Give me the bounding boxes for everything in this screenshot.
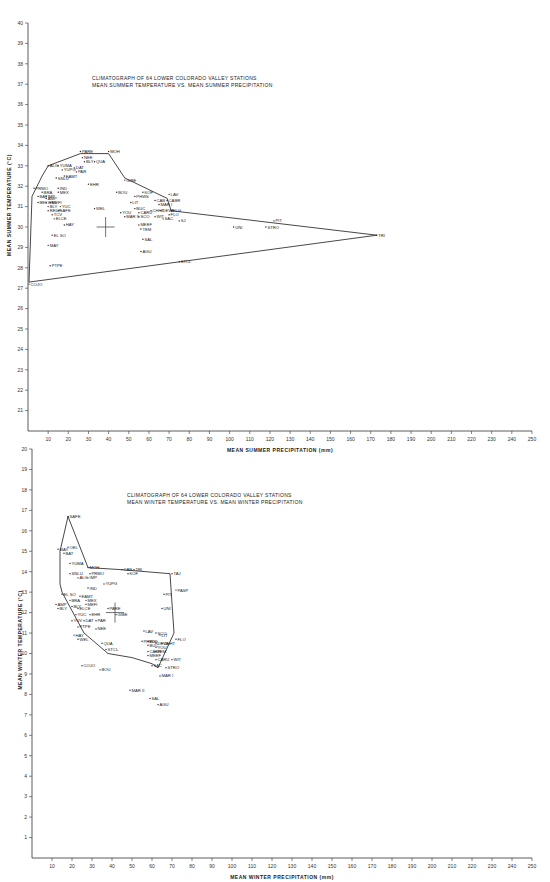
station-point: BAT — [63, 551, 73, 556]
station-label: MAR I — [161, 202, 173, 207]
station-label: MAR I — [162, 673, 174, 678]
station-point: STRO — [165, 665, 180, 670]
station-dot — [179, 220, 180, 221]
station-label: BOU — [118, 190, 127, 195]
station-label: MAR II — [126, 214, 139, 219]
station-dot — [67, 516, 68, 517]
station-point: MAY — [47, 243, 58, 248]
station-point: LAV — [168, 192, 178, 197]
station-dot — [138, 224, 139, 225]
y-tick-label: 29 — [17, 244, 23, 250]
station-dot — [73, 634, 74, 635]
station-dot — [159, 634, 160, 635]
station-point: NEE — [95, 626, 106, 631]
station-point: BRA — [69, 598, 80, 603]
station-dot — [56, 177, 57, 178]
station-dot — [89, 614, 90, 615]
y-axis-label: MEAN WINTER TEMPERATURE (°C) — [17, 590, 23, 689]
station-label: HAY — [66, 222, 75, 227]
station-point: COJO — [28, 282, 43, 287]
station-label: MEX — [60, 190, 69, 195]
station-dot — [134, 208, 135, 209]
station-dot — [64, 224, 65, 225]
station-dot — [175, 638, 176, 639]
x-axis-label: MEAN WINTER PRECIPITATION (mm) — [230, 874, 334, 880]
station-dot — [99, 669, 100, 670]
station-label: TRI — [378, 233, 385, 238]
station-point: BLY — [57, 606, 67, 611]
station-dot — [162, 218, 163, 219]
station-dot — [120, 212, 121, 213]
station-dot — [37, 202, 38, 203]
station-label: SNLU — [58, 176, 69, 181]
y-tick-label: 9 — [24, 671, 27, 677]
station-point: BOU — [116, 190, 127, 195]
station-dot — [87, 587, 88, 588]
station-dot — [47, 165, 48, 166]
station-label: SAL — [144, 237, 153, 242]
station-dot — [142, 239, 143, 240]
y-tick-label: 3 — [24, 793, 27, 799]
station-point: PARE — [107, 606, 120, 611]
y-tick-label: 38 — [17, 61, 23, 67]
station-label: SCO — [140, 214, 150, 219]
station-dot — [47, 206, 48, 207]
station-label: WIT — [174, 657, 182, 662]
x-tick-label: 90 — [207, 436, 213, 442]
station-label: BOU — [102, 667, 111, 672]
x-tick-label: 40 — [109, 863, 115, 869]
y-tick-label: 4 — [24, 773, 27, 779]
chart-subtitle: MEAN SUMMER TEMPERATURE VS. MEAN SUMMER … — [92, 82, 273, 88]
y-tick-label: 28 — [17, 265, 23, 271]
station-dot — [89, 573, 90, 574]
station-dot — [77, 608, 78, 609]
x-tick-label: 150 — [328, 863, 337, 869]
station-dot — [159, 675, 160, 676]
station-dot — [376, 234, 377, 235]
station-label: LIT — [162, 633, 168, 638]
station-label: ELCE — [80, 606, 91, 611]
station-point: SJ — [179, 218, 186, 223]
y-tick-label: 39 — [17, 40, 23, 46]
station-label: ALG — [80, 575, 88, 580]
station-dot — [179, 261, 180, 262]
station-dot — [149, 698, 150, 699]
station-dot — [163, 593, 164, 594]
station-dot — [69, 600, 70, 601]
station-dot — [170, 210, 171, 211]
station-dot — [79, 596, 80, 597]
station-point: COJO — [81, 663, 96, 668]
y-tick-label: 20 — [21, 446, 27, 452]
station-dot — [83, 620, 84, 621]
station-label: PARE — [110, 606, 121, 611]
station-dot — [161, 643, 162, 644]
station-label: COJO — [84, 663, 96, 668]
station-point: QUA — [94, 159, 105, 164]
station-point: LAV — [143, 629, 153, 634]
y-tick-label: 14 — [21, 569, 27, 575]
y-tick-label: 27 — [17, 285, 23, 291]
x-tick-label: 140 — [306, 436, 315, 442]
station-dot — [151, 665, 152, 666]
x-tick-label: 110 — [246, 436, 254, 442]
x-tick-label: 50 — [129, 863, 135, 869]
station-label: STRO — [267, 225, 279, 230]
station-point: EHR — [88, 182, 99, 187]
station-point: MAR I — [159, 673, 173, 678]
station-point: ELCE — [77, 606, 90, 611]
station-dot — [58, 210, 59, 211]
station-dot — [107, 608, 108, 609]
station-dot — [62, 169, 63, 170]
x-axis-label: MEAN SUMMER PRECIPITATION (mm) — [227, 447, 333, 453]
station-dot — [58, 188, 59, 189]
station-point: MAR II — [124, 214, 139, 219]
x-tick-label: 250 — [528, 863, 537, 869]
station-point: PTPE — [77, 624, 90, 629]
station-dot — [80, 151, 81, 152]
station-point: YUMA — [69, 561, 84, 566]
station-dot — [124, 179, 125, 180]
chart-title: CLIMATOGRAPH OF 64 LOWER COLORADO VALLEY… — [127, 492, 292, 498]
x-tick-label: 160 — [348, 863, 357, 869]
station-dot — [88, 183, 89, 184]
station-label: LIT — [132, 200, 138, 205]
